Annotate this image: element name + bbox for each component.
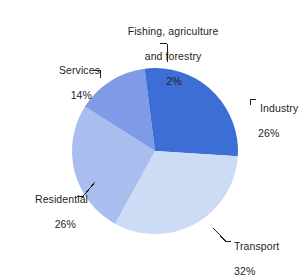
slice-label-fishing-line1: Fishing, agriculture [128, 25, 219, 37]
slice-value-residential: 26% [6, 218, 88, 231]
slice-value-fishing: 2% [108, 75, 226, 88]
slice-value-industry: 26% [248, 127, 300, 140]
slice-label-services-name: Services [59, 64, 100, 76]
slice-label-residential: Residential 26% [6, 180, 88, 255]
slice-label-fishing-line2: and forestry [145, 50, 202, 62]
slice-label-transport: Transport 32% [222, 227, 298, 279]
slice-label-industry-name: Industry [260, 102, 298, 114]
slice-label-industry: Industry 26% [248, 89, 300, 164]
slice-label-fishing-agriculture-forestry: Fishing, agriculture and forestry 2% [108, 12, 226, 112]
slice-label-residential-name: Residential [35, 193, 88, 205]
slice-label-transport-name: Transport [234, 240, 279, 252]
slice-value-services: 14% [28, 89, 100, 102]
slice-value-transport: 32% [222, 265, 298, 278]
slice-label-services: Services 14% [28, 51, 100, 126]
